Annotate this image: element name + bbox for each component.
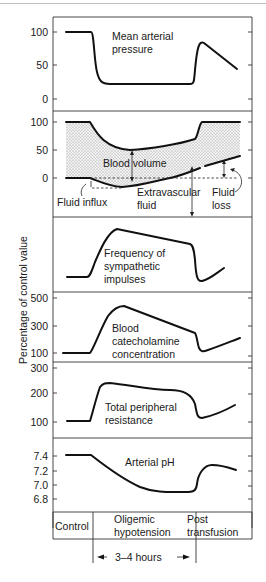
tick-label: 7.0: [33, 479, 48, 491]
extravascular-label: fluid: [137, 199, 156, 211]
phase-post-transfusion: transfusion: [187, 526, 239, 538]
ticks-right: [248, 368, 252, 422]
panel-sympathetic-impulses: Frequency of sympathetic impulses: [67, 229, 224, 285]
tick-label: 0: [42, 93, 48, 105]
phase-oligemic: Oligemic: [114, 513, 155, 525]
panel-title: sympathetic: [104, 260, 160, 272]
panel-title: Arterial pH: [125, 456, 175, 468]
tick-label: 100: [30, 116, 48, 128]
panel-total-peripheral-resistance: 300 200 100 Total peripheral resistance: [30, 362, 252, 428]
tick-label: 50: [36, 144, 48, 156]
ticks-right: [248, 122, 252, 178]
phase-control: Control: [55, 520, 89, 532]
tick-label: 50: [36, 59, 48, 71]
panel-mean-arterial-pressure: 100 50 0 Mean arterial pressure: [30, 26, 252, 105]
panel-title: Total peripheral: [105, 401, 177, 413]
duration-label: 3–4 hours: [115, 551, 162, 563]
tick-label: 7.2: [33, 465, 48, 477]
tick-label: 0: [42, 172, 48, 184]
fluid-loss-label: Fluid: [212, 186, 235, 198]
ticks-left: 7.4 7.2 7.0 6.8: [33, 450, 57, 505]
panel-title: pressure: [112, 43, 153, 55]
blood-volume-label: Blood volume: [103, 157, 167, 169]
panel-title: concentration: [112, 348, 175, 360]
panel-catecholamine: 500 300 100 Blood catecholamine concentr…: [30, 292, 252, 360]
ticks-right: [248, 298, 252, 356]
extravascular-label: Extravascular: [137, 186, 201, 198]
tick-label: 6.8: [33, 493, 48, 505]
tick-label: 300: [30, 362, 48, 374]
fluid-influx-label: Fluid influx: [57, 196, 108, 208]
tick-label: 100: [30, 26, 48, 38]
panel-title: impulses: [104, 273, 145, 285]
panel-blood-volume: 100 50 0: [30, 116, 252, 217]
fluid-loss-label: loss: [212, 199, 231, 211]
arrow-right-icon: [183, 555, 190, 560]
duration-indicator: 3–4 hours: [97, 551, 190, 563]
tick-label: 500: [30, 292, 48, 304]
blood-volume-area: [66, 122, 240, 187]
plot-frame: [53, 17, 252, 563]
tick-label: 7.4: [33, 450, 48, 462]
panel-title: Blood: [112, 322, 139, 334]
tick-label: 200: [30, 387, 48, 399]
panel-title: Frequency of: [104, 247, 165, 259]
y-axis-label: Percentage of control value: [17, 236, 29, 364]
phase-post-transfusion: Post: [187, 513, 208, 525]
ticks-right: [248, 456, 252, 499]
panel-title: resistance: [105, 414, 153, 426]
tick-label: 100: [30, 347, 48, 359]
phase-oligemic: hypotension: [114, 526, 171, 538]
tick-label: 300: [30, 320, 48, 332]
panel-title: Mean arterial: [112, 30, 173, 42]
phase-labels: Control Oligemic hypotension Post transf…: [55, 513, 239, 538]
ticks-right: [248, 32, 252, 99]
panel-title: catecholamine: [112, 335, 180, 347]
tick-label: 100: [30, 416, 48, 428]
hemorrhagic-shock-diagram: Percentage of control value 100 50 0 Mea…: [0, 0, 266, 582]
panel-arterial-ph: 7.4 7.2 7.0 6.8 Arterial pH: [33, 450, 252, 505]
